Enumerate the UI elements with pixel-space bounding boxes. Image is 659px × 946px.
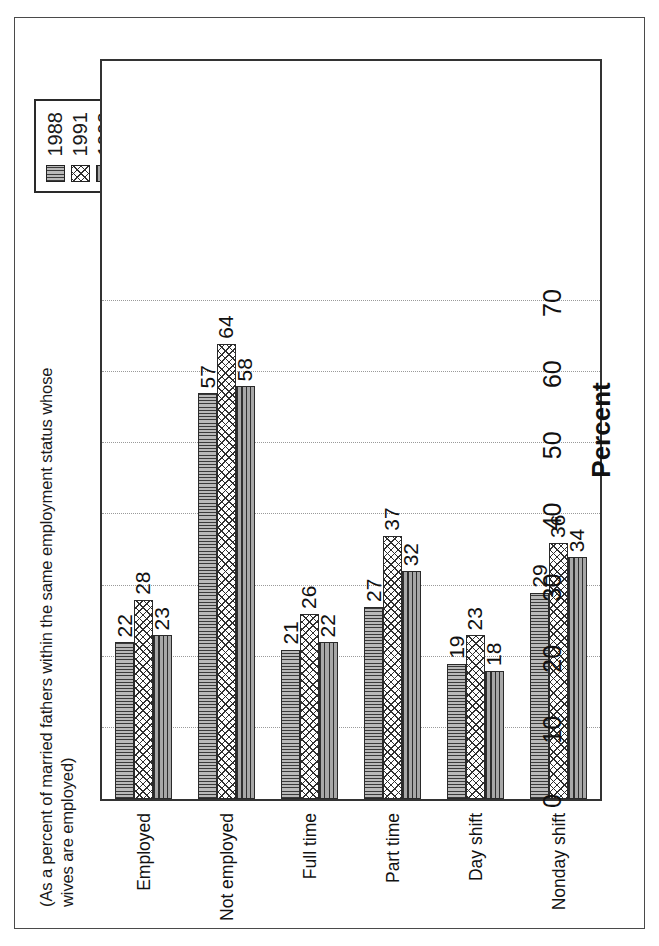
bar-not-employed-1991: 64 bbox=[217, 344, 236, 799]
bar-not-employed-1988: 57 bbox=[198, 394, 217, 800]
legend-swatch-1991-icon bbox=[71, 166, 90, 183]
bar-full-time-1988: 21 bbox=[281, 650, 300, 799]
axis-tick-label: 0 bbox=[538, 771, 567, 831]
bar-value-label: 23 bbox=[463, 607, 487, 630]
axis-tick-label: 10 bbox=[538, 700, 567, 760]
category-label-day-shift: Day shift bbox=[465, 803, 486, 881]
bar-nonday-shift-1993: 34 bbox=[567, 557, 586, 799]
chart-subtitle: (As a percent of married fathers within … bbox=[36, 347, 78, 907]
bar-value-label: 32 bbox=[399, 543, 423, 566]
axis-tick-label: 20 bbox=[538, 629, 567, 689]
y-axis-title: Percent bbox=[586, 59, 617, 801]
gridline bbox=[102, 656, 600, 657]
bar-value-label: 21 bbox=[278, 621, 302, 644]
gridline bbox=[102, 442, 600, 443]
bar-not-employed-1993: 58 bbox=[235, 386, 254, 799]
bar-full-time-1993: 22 bbox=[318, 643, 337, 800]
legend-item-1988: 1988 bbox=[43, 112, 68, 183]
plot-area: Employed222823Not employed576458Full tim… bbox=[100, 59, 602, 801]
legend-label: 1991 bbox=[69, 112, 92, 157]
bar-part-time-1988: 27 bbox=[364, 607, 383, 799]
category-label-employed: Employed bbox=[133, 803, 154, 891]
bar-day-shift-1993: 18 bbox=[484, 671, 503, 799]
bar-value-label: 37 bbox=[380, 507, 404, 530]
rotated-figure-stage: (As a percent of married fathers within … bbox=[30, 33, 630, 913]
gridline bbox=[102, 585, 600, 586]
category-label-not-employed: Not employed bbox=[216, 803, 237, 921]
bar-day-shift-1988: 19 bbox=[447, 664, 466, 799]
category-label-full-time: Full time bbox=[299, 803, 320, 879]
bar-value-label: 22 bbox=[112, 614, 136, 637]
gridline bbox=[102, 300, 600, 301]
bar-employed-1988: 22 bbox=[115, 643, 134, 800]
category-label-part-time: Part time bbox=[382, 803, 403, 883]
bar-value-label: 18 bbox=[482, 643, 506, 666]
bar-value-label: 64 bbox=[214, 315, 238, 338]
bar-value-label: 22 bbox=[316, 614, 340, 637]
axis-tick-label: 40 bbox=[538, 486, 567, 546]
scanned-page-frame: (As a percent of married fathers within … bbox=[14, 17, 645, 929]
axis-tick-label: 30 bbox=[538, 558, 567, 618]
gridline bbox=[102, 371, 600, 372]
bar-part-time-1993: 32 bbox=[401, 571, 420, 799]
legend-swatch-1988-icon bbox=[46, 166, 65, 183]
bar-full-time-1991: 26 bbox=[300, 614, 319, 799]
bar-employed-1993: 23 bbox=[152, 635, 171, 799]
plot-inner: Employed222823Not employed576458Full tim… bbox=[102, 61, 600, 799]
axis-tick-label: 50 bbox=[538, 415, 567, 475]
legend-item-1991: 1991 bbox=[68, 112, 93, 183]
bar-value-label: 23 bbox=[150, 607, 174, 630]
axis-tick-label: 60 bbox=[538, 344, 567, 404]
legend-label: 1988 bbox=[44, 112, 67, 157]
axis-tick-label: 70 bbox=[538, 273, 567, 333]
gridline bbox=[102, 727, 600, 728]
bar-value-label: 19 bbox=[444, 635, 468, 658]
bar-value-label: 27 bbox=[361, 579, 385, 602]
bar-nonday-shift-1988: 29 bbox=[530, 593, 549, 799]
bar-part-time-1991: 37 bbox=[383, 536, 402, 799]
bar-value-label: 57 bbox=[195, 365, 219, 388]
bar-value-label: 58 bbox=[233, 358, 257, 381]
bar-value-label: 28 bbox=[131, 571, 155, 594]
bar-value-label: 26 bbox=[297, 586, 321, 609]
gridline bbox=[102, 513, 600, 514]
